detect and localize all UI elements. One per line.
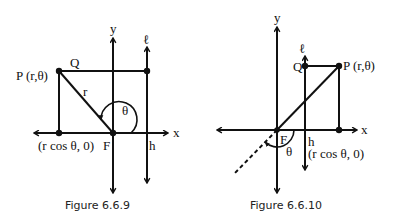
directrix-label: ℓ [143,32,149,47]
directrix-label: ℓ [299,41,305,56]
point-q-dot [302,63,308,69]
focus-dot [110,130,116,136]
focus-dot [274,127,280,133]
radius-label: r [83,84,88,99]
figure-caption: Figure 6.6.9 [65,199,130,212]
figure-caption: Figure 6.6.10 [250,199,322,212]
point-directrix-dot [144,68,150,74]
y-axis-label: y [110,21,117,36]
figure-6-6-9: y ℓ x P (r,θ) Q r θ (r cos θ, 0) F h Fig… [16,21,180,212]
dashed-extension [235,130,277,173]
angle-label: θ [122,103,128,118]
y-axis-label: y [274,10,281,25]
point-p-dot [336,63,342,69]
point-foot-dot [336,127,342,133]
radius-segment [59,71,113,133]
diagram-canvas: y ℓ x P (r,θ) Q r θ (r cos θ, 0) F h Fig… [0,0,397,217]
point-foot-dot [56,130,62,136]
point-q-label: Q [70,55,80,70]
figure-6-6-10: y ℓ x P (r,θ) Q F θ h (r cos θ, 0) Figur… [217,10,375,212]
foot-coordinate-label: (r cos θ, 0) [308,146,364,161]
foot-coordinate-label: (r cos θ, 0) [38,138,94,153]
angle-label: θ [286,144,292,159]
point-p-dot [56,68,62,74]
focus-label: F [103,138,110,153]
h-label: h [149,138,156,153]
radius-segment [277,66,339,130]
point-q-label: Q [293,59,303,74]
point-p-label: P (r,θ) [16,68,48,83]
point-p-label: P (r,θ) [343,58,375,73]
x-axis-label: x [173,125,180,140]
x-axis-label: x [361,122,368,137]
theta-arc-icon [101,102,137,133]
